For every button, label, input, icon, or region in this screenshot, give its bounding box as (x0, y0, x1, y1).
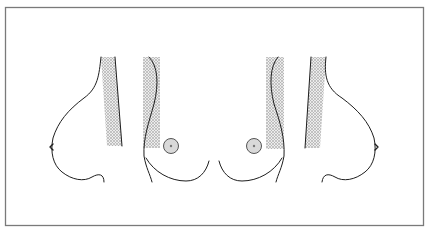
diagram-frame (6, 8, 424, 226)
anatomical-diagram (0, 0, 429, 230)
nipple-icon (253, 145, 255, 147)
nipple-icon (170, 145, 172, 147)
hatched-band-icon (266, 57, 284, 149)
